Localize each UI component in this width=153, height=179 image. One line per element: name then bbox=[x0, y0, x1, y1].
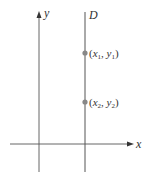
x-axis: x bbox=[10, 137, 142, 151]
point-1-label: (x1, y1) bbox=[89, 47, 119, 61]
y-axis-arrow-icon bbox=[37, 11, 42, 18]
point-2-marker bbox=[82, 99, 87, 104]
coordinate-diagram: x y D (x1, y1) (x2, y2) bbox=[0, 0, 153, 179]
point-1-marker bbox=[82, 50, 87, 55]
point-2-label: (x2, y2) bbox=[89, 96, 119, 110]
vertical-line-d: D bbox=[85, 8, 98, 172]
y-axis-label: y bbox=[43, 6, 50, 20]
point-2: (x2, y2) bbox=[82, 96, 119, 110]
y-axis: y bbox=[37, 6, 51, 172]
x-axis-arrow-icon bbox=[127, 142, 134, 147]
line-d-label: D bbox=[88, 8, 98, 22]
x-axis-label: x bbox=[135, 137, 142, 151]
point-1: (x1, y1) bbox=[82, 47, 119, 61]
